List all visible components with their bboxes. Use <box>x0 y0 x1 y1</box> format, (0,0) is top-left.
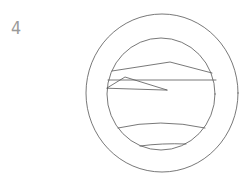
porthole-sketch <box>0 0 252 181</box>
mountain-ridge <box>112 62 212 73</box>
bottom-curve <box>140 144 186 146</box>
shoreline-curve <box>118 123 205 128</box>
inner-window <box>107 38 215 150</box>
land-spit-triangle <box>107 77 167 90</box>
